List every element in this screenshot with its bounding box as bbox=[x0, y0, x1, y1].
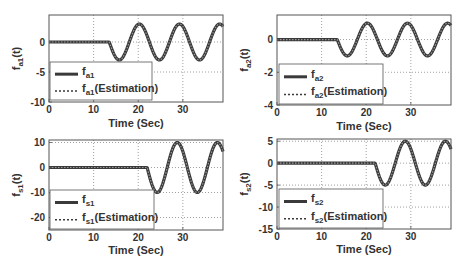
x-axis-label: Time (Sec) bbox=[108, 244, 164, 256]
y-axis-label: fa2(t) bbox=[238, 48, 253, 72]
x-tick-label: 10 bbox=[88, 104, 100, 115]
label-tail: (Estimation) bbox=[324, 85, 388, 97]
label-subscript: s2 bbox=[315, 198, 324, 207]
label-tail: (Estimation) bbox=[95, 211, 159, 223]
y-tick-label: -15 bbox=[259, 224, 274, 235]
figure: 01020300-5-10Time (Sec)fa1(t)fa1fa1(Esti… bbox=[0, 0, 465, 267]
x-tick-label: 20 bbox=[361, 107, 373, 118]
x-axis-label: Time (Sec) bbox=[336, 243, 392, 255]
label-tail: (t) bbox=[238, 172, 250, 183]
x-tick-label: 30 bbox=[405, 231, 417, 242]
y-tick-label: -20 bbox=[31, 212, 46, 223]
subplot-fa1: 01020300-5-10Time (Sec)fa1(t)fa1fa1(Esti… bbox=[10, 15, 223, 129]
label-tail: (t) bbox=[10, 173, 22, 184]
x-tick-label: 30 bbox=[405, 107, 417, 118]
label-subscript: s1 bbox=[86, 199, 95, 208]
y-tick-label: 0 bbox=[39, 37, 45, 48]
x-tick-label: 0 bbox=[274, 107, 280, 118]
legend: fs2fs2(Estimation) bbox=[279, 189, 387, 228]
y-tick-label: -10 bbox=[31, 97, 46, 108]
x-tick-label: 20 bbox=[133, 104, 145, 115]
y-axis-label: fs2(t) bbox=[238, 172, 253, 196]
legend: fs1fs1(Estimation) bbox=[50, 190, 158, 229]
y-tick-label: -5 bbox=[264, 180, 273, 191]
x-tick-label: 30 bbox=[177, 104, 189, 115]
x-tick-label: 10 bbox=[88, 232, 100, 243]
legend: fa2fa2(Estimation) bbox=[279, 64, 387, 104]
x-tick-label: 0 bbox=[46, 232, 52, 243]
x-tick-label: 0 bbox=[46, 104, 52, 115]
y-tick-label: 5 bbox=[267, 136, 273, 147]
subplot-fs1: 0102030100-10-20Time (Sec)fs1(t)fs1fs1(E… bbox=[10, 137, 223, 256]
label-tail: (t) bbox=[10, 46, 22, 57]
x-tick-label: 20 bbox=[361, 231, 373, 242]
label-tail: (Estimation) bbox=[324, 210, 388, 222]
y-axis-label: fs1(t) bbox=[10, 173, 25, 197]
x-axis-label: Time (Sec) bbox=[336, 120, 392, 132]
y-tick-label: -2 bbox=[264, 67, 273, 78]
x-tick-label: 30 bbox=[177, 232, 189, 243]
y-tick-label: 0 bbox=[267, 158, 273, 169]
subplot-fa2: 01020300-2-4Time (Sec)fa2(t)fa2fa2(Estim… bbox=[238, 15, 451, 132]
subplot-fs2: 010203050-5-10-15Time (Sec)fs2(t)fs2fs2(… bbox=[238, 136, 451, 255]
label-tail: (Estimation) bbox=[95, 82, 159, 94]
x-tick-label: 10 bbox=[316, 231, 328, 242]
legend: fa1fa1(Estimation) bbox=[50, 62, 158, 100]
x-tick-label: 20 bbox=[133, 232, 145, 243]
y-tick-label: -5 bbox=[36, 67, 45, 78]
svg-text:fa1(t): fa1(t) bbox=[10, 46, 25, 70]
x-tick-label: 0 bbox=[274, 231, 280, 242]
y-tick-label: -10 bbox=[31, 187, 46, 198]
y-axis-label: fa1(t) bbox=[10, 46, 25, 70]
label-subscript: a2 bbox=[315, 74, 324, 83]
label-tail: (t) bbox=[238, 48, 250, 59]
y-tick-label: 10 bbox=[34, 137, 46, 148]
y-tick-label: 0 bbox=[39, 162, 45, 173]
x-axis-label: Time (Sec) bbox=[108, 117, 164, 129]
y-tick-label: -10 bbox=[259, 202, 274, 213]
label-subscript: a1 bbox=[86, 71, 95, 80]
y-tick-label: 0 bbox=[267, 34, 273, 45]
svg-text:fa2(t): fa2(t) bbox=[238, 48, 253, 72]
svg-text:fs1(t): fs1(t) bbox=[10, 173, 25, 197]
svg-text:fs2(t): fs2(t) bbox=[238, 172, 253, 196]
y-tick-label: -4 bbox=[264, 100, 273, 111]
x-tick-label: 10 bbox=[316, 107, 328, 118]
